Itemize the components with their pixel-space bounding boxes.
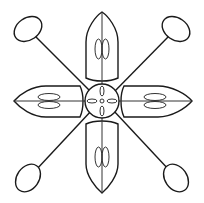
rod-bottom-right	[113, 110, 170, 171]
flower-drawing	[0, 0, 204, 203]
rod-top-left	[36, 37, 92, 93]
line-art-canvas	[0, 0, 204, 203]
petal-top	[86, 12, 118, 84]
petal-left	[14, 86, 86, 117]
rod-bottom-left	[36, 110, 92, 170]
petal-bottom	[86, 118, 118, 193]
center-circle	[85, 84, 119, 118]
petal-right	[118, 86, 192, 117]
rod-top-right	[113, 36, 169, 93]
